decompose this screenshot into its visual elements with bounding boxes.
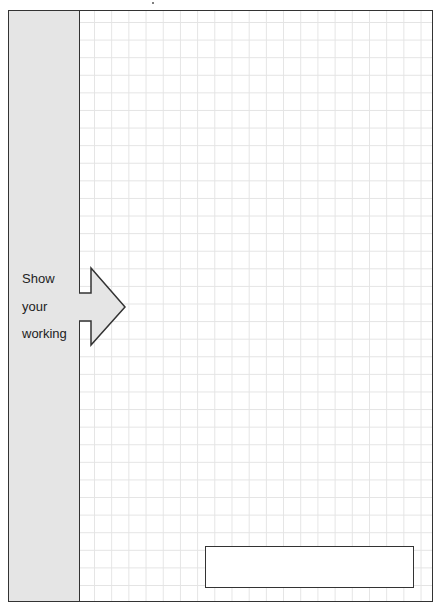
page-mark (152, 2, 154, 4)
label-line-3: working (22, 326, 67, 341)
label-line-2: your (22, 299, 47, 314)
label-line-1: Show (22, 271, 55, 286)
working-grid-area[interactable] (80, 11, 432, 601)
answer-box[interactable] (205, 546, 414, 588)
arrow-right-icon (77, 266, 129, 348)
